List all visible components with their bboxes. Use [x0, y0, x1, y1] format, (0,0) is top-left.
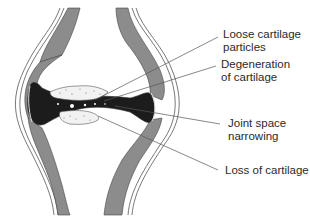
- label-degeneration-of-cartilage: Degeneration of cartilage: [221, 58, 290, 84]
- right-upper-cortex: [116, 8, 164, 100]
- lower-cartilage: [59, 111, 98, 125]
- label-loose-cartilage-particles: Loose cartilage particles: [223, 28, 301, 54]
- leader-joint-space: [115, 106, 220, 124]
- label-loss-of-cartilage: Loss of cartilage: [225, 164, 309, 177]
- label-joint-space-narrowing: Joint space narrowing: [228, 117, 286, 143]
- right-lower-cortex: [104, 118, 162, 215]
- left-lower-cortex: [28, 118, 70, 215]
- left-upper-cortex: [40, 8, 80, 62]
